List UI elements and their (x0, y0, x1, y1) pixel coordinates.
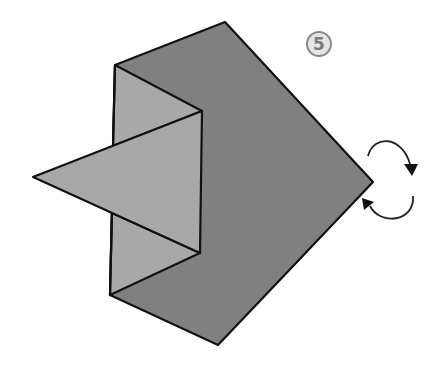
upper-arc-arrow (368, 141, 410, 164)
upper-arrowhead-icon (404, 164, 418, 176)
step-number: 5 (313, 34, 325, 54)
lower-arc-arrow (370, 196, 413, 219)
step-number-badge: 5 (307, 32, 331, 56)
origami-diagram: 5 (0, 0, 441, 369)
